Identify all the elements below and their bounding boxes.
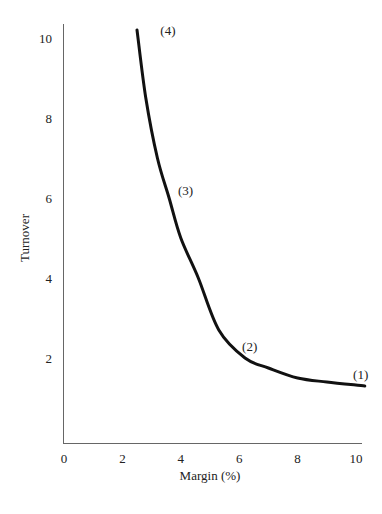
x-tick-label: 10 [350,451,363,466]
curve-annotation: (2) [242,339,257,354]
x-tick-label: 8 [294,451,301,466]
x-tick-label: 6 [236,451,243,466]
x-tick-labels: 0246810 [61,451,363,466]
curve-annotation: (3) [178,183,193,198]
x-tick-label: 4 [178,451,185,466]
chart: 246810 0246810 Turnover Margin (%) (4)(3… [0,0,382,514]
x-axis-label: Margin (%) [180,468,241,483]
y-tick-label: 2 [46,351,53,366]
y-tick-labels: 246810 [39,31,53,366]
y-axis-label: Turnover [17,213,32,262]
y-tick-label: 6 [46,191,53,206]
curve-annotations: (4)(3)(2)(1) [160,23,368,382]
y-tick-label: 10 [39,31,52,46]
y-tick-label: 8 [46,111,53,126]
y-tick-label: 4 [46,271,53,286]
x-tick-label: 0 [61,451,68,466]
curve-annotation: (1) [353,367,368,382]
turnover-margin-curve [137,30,365,386]
x-tick-label: 2 [119,451,126,466]
curve-annotation: (4) [160,23,175,38]
